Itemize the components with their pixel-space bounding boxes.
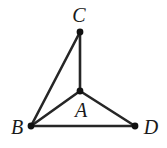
edge-ba bbox=[31, 91, 80, 126]
edge-bc bbox=[31, 32, 80, 126]
edge-ad bbox=[80, 91, 135, 126]
vertex-point-b bbox=[28, 123, 35, 130]
vertex-point-a bbox=[77, 88, 84, 95]
vertex-point-d bbox=[132, 123, 139, 130]
vertex-point-c bbox=[77, 29, 84, 36]
vertex-label-c: C bbox=[72, 5, 85, 25]
vertex-label-d: D bbox=[144, 117, 158, 137]
vertex-label-b: B bbox=[11, 117, 23, 137]
geometry-figure: ABCD bbox=[0, 0, 167, 148]
vertex-label-a: A bbox=[75, 100, 87, 120]
